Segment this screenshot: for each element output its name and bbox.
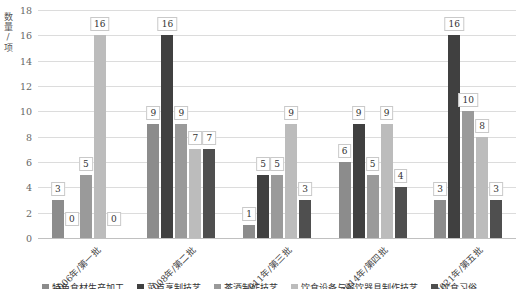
data-label: 3 xyxy=(489,182,503,196)
bar xyxy=(271,175,283,238)
data-label: 16 xyxy=(90,17,109,31)
bar xyxy=(476,137,488,238)
data-label: 4 xyxy=(394,169,408,183)
data-label: 3 xyxy=(298,182,312,196)
y-tick-label: 8 xyxy=(0,132,32,143)
bar xyxy=(175,124,187,238)
bar xyxy=(448,35,460,238)
bar xyxy=(299,200,311,238)
legend-label: 特色食材生产加工 xyxy=(52,281,124,289)
bar xyxy=(395,187,407,238)
y-tick-label: 4 xyxy=(0,182,32,193)
data-label: 5 xyxy=(79,157,93,171)
legend-item: 菜点烹制技艺 xyxy=(137,281,201,289)
y-tick-label: 18 xyxy=(0,5,32,16)
legend-label: 饮食习俗 xyxy=(441,281,477,289)
legend: 特色食材生产加工菜点烹制技艺茶酒制作技艺饮食设备与餐饮器具制作技艺饮食习俗 xyxy=(0,281,519,289)
bar xyxy=(161,35,173,238)
data-label: 6 xyxy=(338,144,352,158)
bar xyxy=(367,175,379,238)
legend-label: 饮食设备与餐饮器具制作技艺 xyxy=(301,281,418,289)
legend-item: 茶酒制作技艺 xyxy=(214,281,278,289)
bar xyxy=(189,149,201,238)
gridline xyxy=(38,61,516,62)
data-label: 5 xyxy=(256,157,270,171)
bar xyxy=(462,111,474,238)
data-label: 16 xyxy=(158,17,177,31)
bar xyxy=(434,200,446,238)
legend-item: 特色食材生产加工 xyxy=(42,281,124,289)
bar-chart: 数量/项 024681012141618 3051609169771559369… xyxy=(0,0,519,289)
data-label: 7 xyxy=(203,131,217,145)
data-label: 0 xyxy=(65,212,79,226)
y-tick-label: 12 xyxy=(0,81,32,92)
data-label: 9 xyxy=(352,106,366,120)
legend-label: 菜点烹制技艺 xyxy=(147,281,201,289)
legend-item: 饮食设备与餐饮器具制作技艺 xyxy=(291,281,418,289)
bar xyxy=(147,124,159,238)
bar xyxy=(52,200,64,238)
y-tick-label: 10 xyxy=(0,106,32,117)
x-axis-line xyxy=(38,238,516,239)
bar xyxy=(203,149,215,238)
y-tick-label: 0 xyxy=(0,233,32,244)
data-label: 5 xyxy=(366,157,380,171)
bar xyxy=(257,175,269,238)
data-label: 9 xyxy=(284,106,298,120)
data-label: 3 xyxy=(51,182,65,196)
data-label: 8 xyxy=(475,119,489,133)
y-tick-label: 2 xyxy=(0,208,32,219)
gridline xyxy=(38,86,516,87)
data-label: 10 xyxy=(458,93,477,107)
bar xyxy=(339,162,351,238)
y-tick-label: 14 xyxy=(0,56,32,67)
bar xyxy=(490,200,502,238)
legend-swatch-icon xyxy=(214,284,221,289)
legend-label: 茶酒制作技艺 xyxy=(224,281,278,289)
data-label: 7 xyxy=(189,131,203,145)
legend-swatch-icon xyxy=(42,284,49,289)
y-tick-label: 16 xyxy=(0,30,32,41)
legend-item: 饮食习俗 xyxy=(431,281,477,289)
bar xyxy=(80,175,92,238)
data-label: 3 xyxy=(433,182,447,196)
data-label: 9 xyxy=(380,106,394,120)
legend-swatch-icon xyxy=(431,284,438,289)
data-label: 16 xyxy=(444,17,463,31)
data-label: 5 xyxy=(270,157,284,171)
gridline xyxy=(38,10,516,11)
bar xyxy=(243,225,255,238)
bar xyxy=(94,35,106,238)
bar xyxy=(353,124,365,238)
bar xyxy=(381,124,393,238)
data-label: 9 xyxy=(175,106,189,120)
gridline xyxy=(38,35,516,36)
data-label: 1 xyxy=(242,207,256,221)
bar xyxy=(285,124,297,238)
legend-swatch-icon xyxy=(291,284,298,289)
gridline xyxy=(38,137,516,138)
data-label: 0 xyxy=(107,212,121,226)
gridline xyxy=(38,111,516,112)
y-tick-label: 6 xyxy=(0,157,32,168)
legend-swatch-icon xyxy=(137,284,144,289)
data-label: 9 xyxy=(147,106,161,120)
